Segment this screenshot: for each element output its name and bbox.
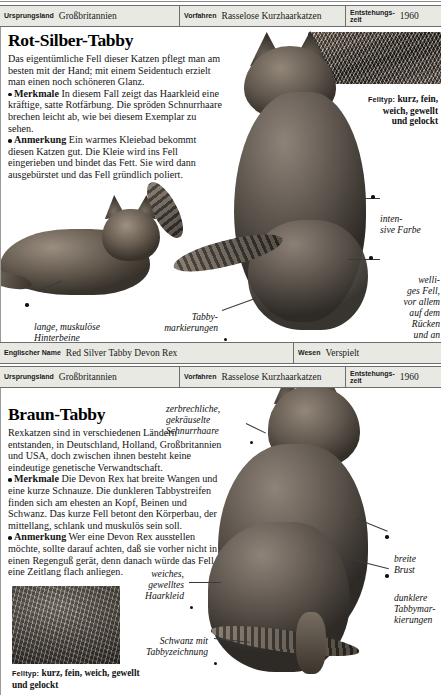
field-value: 1960 <box>400 372 419 382</box>
infobar-article-1: Ursprungsland Großbritannien Vorfahren R… <box>0 5 441 27</box>
callout-tabbymarkierungen: Tabby- markierungen <box>148 300 218 342</box>
paragraph-lead: Anmerkung <box>14 134 66 145</box>
felltyp-label: Felltyp: <box>368 95 395 104</box>
fur-swatch-photo-2 <box>12 586 120 664</box>
callout-dot-icon <box>369 256 373 260</box>
field-value: Großbritannien <box>59 372 117 382</box>
felltyp-caption-2: Felltyp: kurz, fein, weich, gewellt und … <box>12 668 140 690</box>
infobar-field-ursprungsland: Ursprungsland Großbritannien <box>0 6 179 26</box>
bullet-icon <box>8 478 12 482</box>
field-value: Rasselose Kurzhaarkatzen <box>222 372 322 382</box>
bullet-icon <box>8 536 12 540</box>
paragraph-merkmale: Merkmale In diesem Fall zeigt das Haarkl… <box>8 88 223 134</box>
lying-cat-photo-1 <box>0 195 190 310</box>
sitting-cat-photo-1 <box>230 30 370 340</box>
encyclopedia-page: Rot-Silber-Tabby Das eigentümliche Fell … <box>0 0 441 695</box>
callout-schnurrhaare: zerbrechliche, gekräuselte Schnurrhaare <box>166 392 244 447</box>
callout-hinterbeine: lange, muskulöse Hinterbeine <box>34 299 144 342</box>
article-title: Braun-Tabby <box>8 404 105 425</box>
callout-dot-icon <box>224 338 228 342</box>
paragraph-lead: Anmerkung <box>14 531 66 542</box>
paragraph-anmerkung: Anmerkung Wer eine Devon Rex ausstellen … <box>8 531 223 577</box>
paragraph-lead: Merkmale <box>14 473 59 484</box>
infobar-article-2: Ursprungsland Großbritannien Vorfahren R… <box>0 366 441 388</box>
callout-schwanz: Schwanz mit Tabbyzeichnung <box>118 624 208 668</box>
paragraph-anmerkung: Anmerkung Ein warmes Kleiebad bekommt di… <box>8 134 223 180</box>
felltyp-label: Felltyp: <box>12 669 39 678</box>
article-rot-silber-tabby: Rot-Silber-Tabby Das eigentümliche Fell … <box>0 10 441 342</box>
field-label: Entstehungs- zeit <box>350 9 395 24</box>
field-label: Ursprungsland <box>4 12 54 19</box>
field-label: Englischer Name <box>4 349 61 356</box>
paragraph-lead: Merkmale <box>14 88 59 99</box>
article-body: Das eigentümliche Fell dieser Katzen pfl… <box>8 53 223 181</box>
bullet-icon <box>8 139 12 143</box>
page-top-rule <box>0 0 441 3</box>
callout-haarkleid: weiches, gewelltes Haarkleid <box>120 557 184 612</box>
callout-dot-icon <box>385 574 389 578</box>
callout-dunklere-tabbymarkierungen: dunklere Tabbymar- kierungen <box>394 570 441 625</box>
field-value: 1960 <box>400 11 419 21</box>
article-title: Rot-Silber-Tabby <box>8 30 133 51</box>
callout-dot-icon <box>250 441 254 445</box>
callout-dot-icon <box>385 535 389 539</box>
leader-line <box>189 582 221 583</box>
callout-dot-icon <box>190 606 194 610</box>
infobar-field-ursprungsland: Ursprungsland Großbritannien <box>0 367 179 387</box>
paragraph-intro: Das eigentümliche Fell dieser Katzen pfl… <box>8 53 223 88</box>
field-label: Wesen <box>298 349 320 356</box>
bullet-icon <box>8 93 12 97</box>
article-body: Rexkatzen sind in verschiedenen Ländern … <box>8 427 223 578</box>
field-value: Red Silver Tabby Devon Rex <box>66 348 178 358</box>
callout-dot-icon <box>371 195 375 199</box>
leader-line <box>352 198 380 199</box>
infobar-field-vorfahren: Vorfahren Rasselose Kurzhaarkatzen <box>179 6 345 26</box>
callout-dot-icon <box>25 303 29 307</box>
field-label: Vorfahren <box>184 12 217 19</box>
field-label: Ursprungsland <box>4 373 54 380</box>
field-label: Entstehungs- zeit <box>350 370 395 385</box>
infobar-field-entstehungszeit: Entstehungs- zeit 1960 <box>345 367 441 387</box>
field-label: Vorfahren <box>184 373 217 380</box>
felltyp-caption-1: Felltyp: kurz, fein, weich, gewellt und … <box>366 94 438 127</box>
paragraph-merkmale: Merkmale Die Devon Rex hat breite Wangen… <box>8 473 223 531</box>
callout-dot-icon <box>214 662 218 666</box>
article-braun-tabby: Braun-Tabby Rexkatzen sind in verschiede… <box>0 388 441 695</box>
field-value: Rasselose Kurzhaarkatzen <box>222 11 322 21</box>
callout-welliges-fell: welli- ges Fell, vor allem auf dem Rücke… <box>378 252 440 342</box>
field-value: Verspielt <box>325 348 359 358</box>
callout-breite-brust: breite Brust <box>394 531 440 575</box>
field-value: Großbritannien <box>59 11 117 21</box>
infobar-field-vorfahren: Vorfahren Rasselose Kurzhaarkatzen <box>179 367 345 387</box>
infobar-field-englischer-name: Englischer Name Red Silver Tabby Devon R… <box>0 343 293 363</box>
infobar-field-wesen: Wesen Verspielt <box>293 343 441 363</box>
leader-line <box>348 259 380 260</box>
callout-intensive-farbe: inten- sive Farbe <box>380 191 440 235</box>
infobar-article-1-footer: Englischer Name Red Silver Tabby Devon R… <box>0 342 441 364</box>
infobar-field-entstehungszeit: Entstehungs- zeit 1960 <box>345 6 441 26</box>
